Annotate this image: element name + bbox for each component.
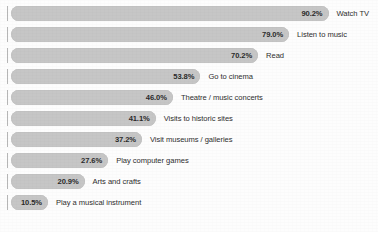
axis-tick-mark <box>7 48 8 63</box>
axis-tick-mark <box>7 132 8 147</box>
bar-value-label: 70.2% <box>231 48 252 63</box>
bar-value-label: 27.6% <box>81 153 102 168</box>
bar[interactable]: 79.0% <box>11 27 289 42</box>
bar-fill <box>11 69 200 84</box>
bar-row: 53.8%Go to cinema <box>0 67 378 88</box>
axis-tick-mark <box>7 111 8 126</box>
bar-row: 20.9%Arts and crafts <box>0 172 378 193</box>
bar-row: 37.2%Visit museums / galleries <box>0 130 378 151</box>
bar-value-label: 37.2% <box>115 132 136 147</box>
bar-category-label: Read <box>266 48 284 63</box>
bar-value-label: 53.8% <box>173 69 194 84</box>
bar-category-label: Play a musical instrument <box>56 195 141 210</box>
axis-tick-mark <box>7 27 8 42</box>
bar-fill <box>11 6 329 21</box>
bar[interactable]: 20.9% <box>11 174 85 189</box>
bar-row: 90.2%Watch TV <box>0 4 378 25</box>
bar[interactable]: 27.6% <box>11 153 108 168</box>
bar-row: 41.1%Visits to historic sites <box>0 109 378 130</box>
bar-value-label: 41.1% <box>129 111 150 126</box>
bar-category-label: Arts and crafts <box>93 174 141 189</box>
bar-fill <box>11 27 289 42</box>
bar-value-label: 20.9% <box>58 174 79 189</box>
bar-row: 79.0%Listen to music <box>0 25 378 46</box>
bar[interactable]: 41.1% <box>11 111 156 126</box>
bar-chart-plot-area: 90.2%Watch TV79.0%Listen to music70.2%Re… <box>0 0 378 232</box>
axis-tick-mark <box>7 174 8 189</box>
bar-category-label: Listen to music <box>297 27 347 42</box>
axis-tick-mark <box>7 195 8 210</box>
bar-row: 46.0%Theatre / music concerts <box>0 88 378 109</box>
bar-row: 27.6%Play computer games <box>0 151 378 172</box>
bar-category-label: Visit museums / galleries <box>150 132 233 147</box>
bar-row: 70.2%Read <box>0 46 378 67</box>
bar-category-label: Watch TV <box>337 6 370 21</box>
bar[interactable]: 37.2% <box>11 132 142 147</box>
bar-value-label: 79.0% <box>262 27 283 42</box>
axis-tick-mark <box>7 69 8 84</box>
bar-category-label: Theatre / music concerts <box>181 90 263 105</box>
axis-tick-mark <box>7 6 8 21</box>
bar[interactable]: 46.0% <box>11 90 173 105</box>
bar[interactable]: 90.2% <box>11 6 329 21</box>
bar-category-label: Play computer games <box>116 153 189 168</box>
bar-row: 10.5%Play a musical instrument <box>0 193 378 214</box>
bar[interactable]: 70.2% <box>11 48 258 63</box>
bar-category-label: Visits to historic sites <box>164 111 233 126</box>
bar[interactable]: 10.5% <box>11 195 48 210</box>
bar-category-label: Go to cinema <box>208 69 253 84</box>
bar-value-label: 90.2% <box>301 6 322 21</box>
bar[interactable]: 53.8% <box>11 69 200 84</box>
axis-tick-mark <box>7 153 8 168</box>
bar-chart: 90.2%Watch TV79.0%Listen to music70.2%Re… <box>0 0 378 232</box>
bar-value-label: 10.5% <box>21 195 42 210</box>
axis-tick-mark <box>7 90 8 105</box>
bar-fill <box>11 48 258 63</box>
bar-value-label: 46.0% <box>146 90 167 105</box>
